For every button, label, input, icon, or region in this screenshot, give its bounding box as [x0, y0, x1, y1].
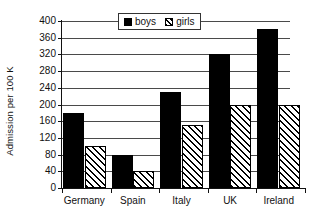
y-axis-tick-label: 400 [39, 16, 56, 26]
y-axis-tick-label: 240 [39, 83, 56, 93]
y-axis-tick-label: 80 [45, 150, 56, 160]
legend-swatch-girls [165, 18, 173, 26]
y-axis-tick-label: 200 [39, 100, 56, 110]
y-axis-tick-label: 0 [50, 183, 56, 193]
x-axis-label-ireland: Ireland [263, 196, 294, 206]
bar-group [62, 21, 305, 188]
y-axis-tick-label: 360 [39, 33, 56, 43]
y-axis-tick-label: 280 [39, 66, 56, 76]
legend-entry-boys: boys [124, 17, 156, 27]
y-axis-tick-label: 160 [39, 116, 56, 126]
y-axis-tick-label: 320 [39, 49, 56, 59]
plot-area: 04080120160200240280320360400 [62, 21, 305, 188]
y-axis-title: Admission per 100 K [2, 0, 18, 222]
legend-label-boys: boys [135, 17, 156, 27]
x-axis-label-germany: Germany [64, 196, 105, 206]
x-axis-label-uk: UK [223, 196, 237, 206]
bar-chart: Admission per 100 K 04080120160200240280… [0, 0, 318, 222]
bar-ireland-girls [279, 105, 300, 189]
x-axis-tick [111, 188, 112, 193]
bar-ireland-boys [257, 29, 278, 188]
y-axis-tick-label: 120 [39, 133, 56, 143]
x-axis-tick [305, 188, 306, 193]
y-axis-tick-label: 40 [45, 166, 56, 176]
x-axis-label-spain: Spain [120, 196, 146, 206]
x-axis-label-italy: Italy [172, 196, 190, 206]
x-axis-tick [208, 188, 209, 193]
legend-swatch-boys [124, 18, 132, 26]
legend-entry-girls: girls [165, 17, 194, 27]
x-axis-tick [256, 188, 257, 193]
x-axis-tick [159, 188, 160, 193]
x-axis-tick [62, 188, 63, 193]
chart-legend: boysgirls [118, 13, 201, 30]
legend-label-girls: girls [176, 17, 194, 27]
